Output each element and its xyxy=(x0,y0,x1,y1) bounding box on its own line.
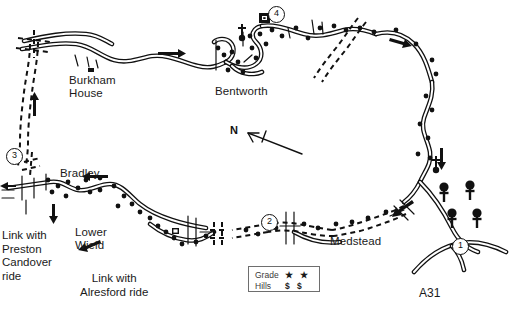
legend-row-hills: Hills $ $ xyxy=(255,280,319,291)
legend-key-grade: Grade xyxy=(255,270,285,280)
direction-arrows xyxy=(0,38,446,252)
legend-row-grade: Grade ★ ★ xyxy=(255,269,319,280)
road-burkham-to-bentworth xyxy=(22,43,226,67)
village-roads-bentworth xyxy=(214,26,262,74)
legend-symbols-hills: $ $ xyxy=(285,281,304,291)
road-east-side xyxy=(404,82,432,202)
route-dashed-junction-3 xyxy=(22,152,40,176)
place-label-bentworth: Bentworth xyxy=(215,85,268,98)
legend-symbols-grade: ★ ★ xyxy=(285,270,311,280)
place-label-burkham-house: Burkham House xyxy=(69,74,116,100)
waypoint-marker-1[interactable]: 1 xyxy=(452,238,469,255)
north-label: N xyxy=(230,124,238,136)
road-label-a31: A31 xyxy=(419,286,440,300)
legend-key-hills: Hills xyxy=(255,281,285,291)
waypoint-marker-2[interactable]: 2 xyxy=(261,214,278,231)
north-arrow-icon xyxy=(248,131,302,154)
cycle-route-map: .rd { fill:none; stroke:#111; stroke-wid… xyxy=(0,0,519,319)
map-legend: Grade ★ ★ Hills $ $ xyxy=(248,266,320,292)
road-northeast-arc xyxy=(376,32,432,82)
place-label-bradley: Bradley xyxy=(60,167,100,180)
road-spur-burkham-b xyxy=(87,57,89,67)
village-roads-lower-wield xyxy=(150,216,214,246)
road-bradley-lower-wield xyxy=(8,182,206,228)
road-spur-burkham-c xyxy=(96,60,98,68)
place-label-lower-wield: Lower Wield xyxy=(75,226,107,252)
waypoint-marker-3[interactable]: 3 xyxy=(6,148,23,165)
place-label-medstead: Medstead xyxy=(330,235,381,248)
road-spur-burkham-a xyxy=(75,55,78,66)
link-label-preston-candover: Link with Preston Candover ride xyxy=(2,229,52,283)
waypoint-marker-4[interactable]: 4 xyxy=(268,6,285,23)
link-label-alresford: Link with Alresford ride xyxy=(80,272,148,299)
